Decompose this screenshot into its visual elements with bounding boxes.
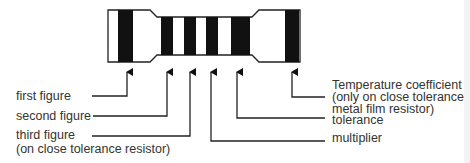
label-first-figure: first figure [16,90,71,102]
label-tolerance: tolerance [332,114,383,126]
band-tolerance [231,17,250,55]
band-multiplier [206,17,218,55]
leader-multiplier [211,72,325,141]
label-third-figure-note: (on close tolerance resistor) [16,143,170,155]
resistor-body [108,10,300,62]
band-second [161,17,173,55]
leader-tolerance [237,72,325,118]
band-temperature [285,10,299,62]
band-third [184,17,196,55]
label-second-figure: second figure [16,110,91,122]
band-first [118,10,133,62]
resistor-band-diagram: first figure second figure third figure … [0,0,470,163]
leader-third-figure [92,72,190,136]
leader-second-figure [93,72,167,116]
leader-first-figure [92,72,127,96]
leader-temperature [292,72,325,97]
label-third-figure: third figure [16,129,75,141]
label-multiplier: multiplier [332,132,382,144]
